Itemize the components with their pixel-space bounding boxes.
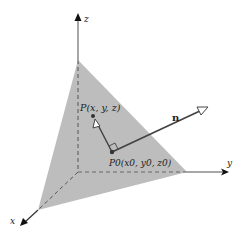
normal-arrowhead-icon — [197, 107, 208, 115]
plane-normal-diagram: z y x P(x, y, z) P0(x0, y0, z0) n — [0, 0, 249, 237]
normal-vector-label: n — [172, 112, 180, 123]
point-p — [91, 114, 95, 118]
z-axis-arrowhead-icon — [75, 13, 82, 21]
plane-triangle — [38, 60, 187, 210]
x-axis-arrowhead-icon — [20, 218, 28, 226]
point-p0 — [110, 150, 114, 154]
x-axis-label: x — [10, 216, 15, 226]
x-axis — [25, 210, 38, 222]
point-p-label: P(x, y, z) — [79, 102, 121, 113]
y-axis-label: y — [226, 158, 233, 168]
point-p0-label: P0(x0, y0, z0) — [108, 158, 172, 168]
z-axis-label: z — [83, 14, 89, 24]
